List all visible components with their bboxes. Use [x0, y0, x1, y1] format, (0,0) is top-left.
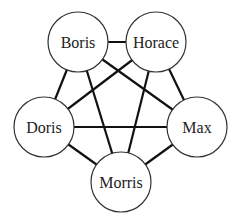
- node-morris: Morris: [91, 152, 151, 212]
- node-doris: Doris: [14, 97, 74, 157]
- node-label: Horace: [133, 34, 179, 51]
- node-horace: Horace: [126, 12, 186, 72]
- node-label: Boris: [61, 34, 96, 51]
- network-graph: BorisHoraceDorisMaxMorris: [0, 0, 234, 222]
- node-max: Max: [167, 97, 227, 157]
- node-label: Morris: [99, 174, 143, 191]
- node-label: Doris: [26, 119, 62, 136]
- node-label: Max: [182, 119, 211, 136]
- node-boris: Boris: [48, 12, 108, 72]
